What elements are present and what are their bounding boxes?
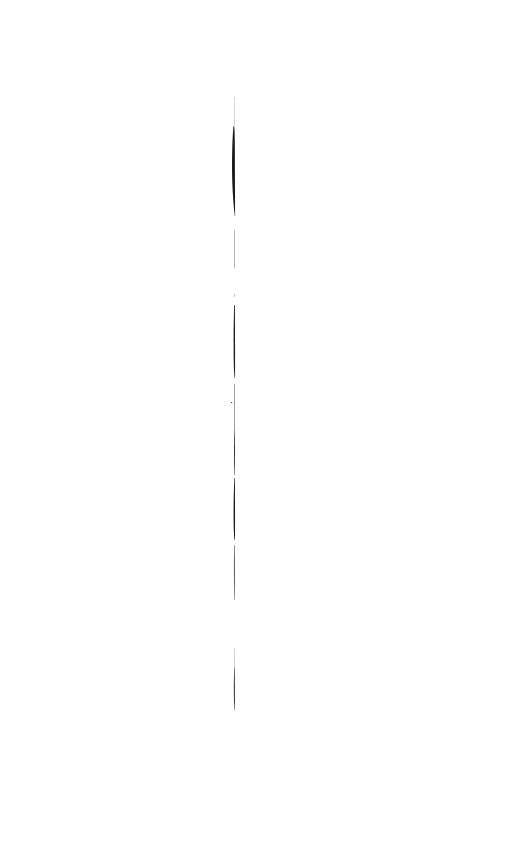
stroke-segment — [234, 230, 235, 268]
stroke-segment — [234, 430, 235, 475]
stroke-speck — [231, 402, 232, 403]
stroke-speck — [234, 294, 235, 297]
stroke-segment — [234, 545, 235, 600]
stroke-segment — [232, 126, 235, 216]
blank-page — [0, 0, 516, 858]
vertical-ink-stroke — [0, 0, 516, 858]
stroke-segment — [234, 648, 235, 668]
stroke-segment — [234, 478, 235, 540]
stroke-segment — [234, 668, 235, 710]
stroke-segment — [234, 305, 236, 378]
stroke-segment — [234, 384, 235, 430]
